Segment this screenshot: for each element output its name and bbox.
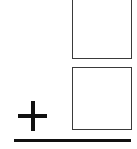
operator-label: + — [18, 101, 19, 102]
bottom-addend-box[interactable] — [72, 67, 132, 130]
plus-vertical-stroke — [31, 101, 35, 131]
sum-line — [14, 139, 131, 142]
bottom-addend-value — [73, 68, 74, 69]
plus-sign-icon: + — [18, 101, 47, 131]
top-addend-box[interactable] — [72, 0, 132, 59]
